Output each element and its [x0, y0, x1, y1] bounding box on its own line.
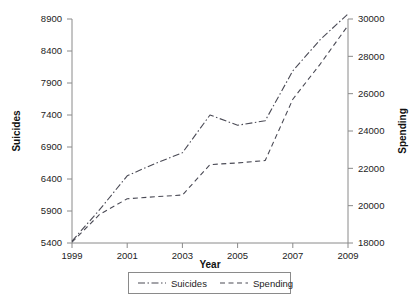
x-axis-tick-label: 2007	[282, 250, 303, 261]
series-line-spending	[72, 26, 348, 243]
x-axis-tick-label: 1999	[61, 250, 82, 261]
y-axis-left-tick-label: 7900	[41, 77, 62, 88]
y-axis-left-tick-label: 6400	[41, 173, 62, 184]
x-axis: 199920012003200520072009 Year	[61, 243, 358, 270]
y-axis-right-ticks: 18000200002200024000260002800030000	[348, 13, 384, 248]
line-chart: 54005900640069007400790084008900 Suicide…	[0, 0, 420, 306]
legend-label-suicides: Suicides	[171, 278, 207, 289]
y-axis-left-tick-label: 8900	[41, 13, 62, 24]
y-axis-left-title: Suicides	[11, 110, 22, 152]
y-axis-right-tick-label: 20000	[358, 200, 384, 211]
y-axis-right-tick-label: 26000	[358, 88, 384, 99]
y-axis-left-ticks: 54005900640069007400790084008900	[41, 13, 72, 248]
y-axis-left-tick-label: 7400	[41, 109, 62, 120]
x-axis-tick-label: 2003	[172, 250, 193, 261]
y-axis-right: 18000200002200024000260002800030000 Spen…	[348, 13, 408, 248]
y-axis-left: 54005900640069007400790084008900 Suicide…	[11, 13, 72, 248]
y-axis-right-tick-label: 24000	[358, 125, 384, 136]
chart-legend: Suicides Spending	[129, 273, 294, 294]
y-axis-left-tick-label: 6900	[41, 141, 62, 152]
x-axis-tick-label: 2001	[117, 250, 138, 261]
y-axis-right-title: Spending	[397, 108, 408, 154]
x-axis-title: Year	[199, 259, 220, 270]
x-axis-tick-label: 2005	[227, 250, 248, 261]
legend-label-spending: Spending	[253, 278, 293, 289]
x-axis-tick-label: 2009	[337, 250, 358, 261]
y-axis-right-tick-label: 28000	[358, 51, 384, 62]
chart-container: 54005900640069007400790084008900 Suicide…	[0, 0, 420, 306]
y-axis-left-tick-label: 8400	[41, 45, 62, 56]
y-axis-right-tick-label: 30000	[358, 13, 384, 24]
y-axis-right-tick-label: 22000	[358, 163, 384, 174]
y-axis-right-tick-label: 18000	[358, 237, 384, 248]
y-axis-left-tick-label: 5900	[41, 205, 62, 216]
data-series-group	[72, 14, 348, 242]
y-axis-left-tick-label: 5400	[41, 237, 62, 248]
